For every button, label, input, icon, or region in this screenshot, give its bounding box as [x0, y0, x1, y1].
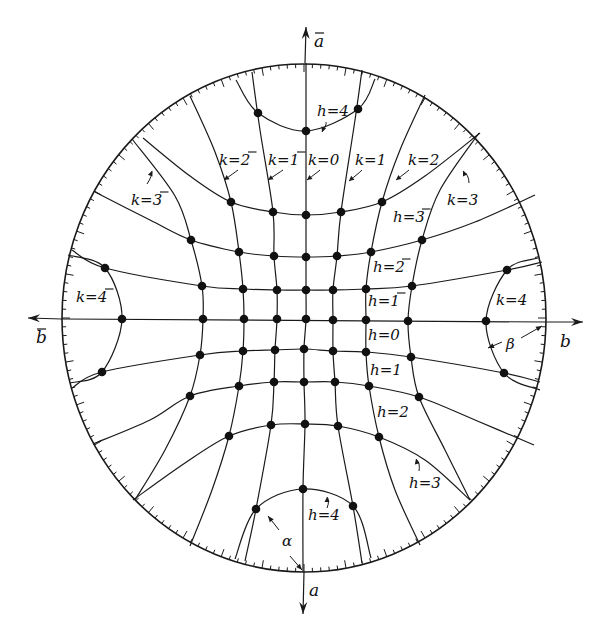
lattice-point-h-1-k-4: [101, 264, 110, 273]
pointer-arrow-icon: [463, 171, 469, 183]
tick-mark: [221, 549, 224, 557]
lattice-point-h0-k-1: [273, 315, 282, 324]
lattice-point-h-1-k4: [503, 266, 512, 275]
index-label: k=1: [268, 151, 299, 169]
tick-mark: [148, 506, 153, 512]
lattice-point-h-2-k-2: [235, 248, 244, 257]
lattice-point-h-3-k2: [378, 198, 387, 207]
lattice-point-h3-k0: [301, 420, 310, 429]
lattice-point-h2-k-2: [235, 382, 244, 391]
lattice-point-h1-k0: [300, 345, 309, 354]
lattice-point-h1-k-1: [271, 346, 280, 355]
b-axis: b: [546, 318, 583, 351]
index-label: k=2: [408, 151, 439, 169]
lattice-point-h0-k4: [482, 317, 491, 326]
pointer-arrow-icon: [396, 170, 409, 180]
lattice-point-h0-k0: [302, 315, 311, 324]
index-label: h=2: [373, 258, 405, 276]
pointer-arrow-icon: [349, 170, 362, 181]
pointer-arrow-icon: [415, 459, 420, 471]
lattice-point-h-4-k1: [354, 105, 363, 114]
lattice-point-h0-k-4: [118, 315, 127, 324]
beta-label: β: [505, 335, 515, 353]
h-curve: [143, 133, 480, 215]
index-label: h=1: [368, 292, 400, 310]
axis-label: b: [560, 331, 571, 351]
h-curve: [93, 382, 534, 445]
lattice-point-h-2-k2: [367, 248, 376, 257]
lattice-point-h2-k3: [415, 393, 424, 402]
tick-mark: [421, 531, 425, 538]
tick-mark: [345, 560, 346, 568]
tick-mark: [534, 274, 542, 275]
lattice-point-h1-k-3: [196, 351, 205, 360]
lattice-point-h-3-k0: [302, 211, 311, 220]
lattice-point-h0-k1: [329, 316, 338, 325]
lattice-point-h0-k-2: [240, 315, 249, 324]
lattice-point-h-2-k1: [333, 252, 342, 261]
lattice-point-h-1-k0: [302, 286, 311, 295]
tick-mark: [524, 231, 532, 234]
lattice-point-h-2-k0: [302, 253, 311, 262]
curve-labels: h=4k=2k=1k=0k=1k=2k=3k=3h=3h=2k=4h=1k=4h…: [76, 102, 527, 550]
lattice-point-h3-k2: [375, 433, 384, 442]
b-bar-axis: b: [28, 314, 62, 347]
index-label: h=4: [317, 102, 349, 120]
lattice-point-h-3-k-2: [227, 198, 236, 207]
lattice-point-h2-k1: [331, 378, 340, 387]
k-curve: [245, 72, 277, 561]
lattice-point-h0-k-3: [199, 315, 208, 324]
index-label: h=3: [393, 208, 425, 226]
lattice-point-h3-k1: [334, 422, 343, 431]
index-label: h=1: [370, 361, 402, 379]
lattice-point-h2-k0: [300, 378, 309, 387]
pointer-arrow-icon: [307, 170, 320, 180]
index-label: k=4: [496, 291, 527, 309]
tick-mark: [183, 98, 187, 105]
index-label: k=3: [447, 191, 478, 209]
tick-mark: [384, 79, 387, 87]
pointer-arrow-icon: [147, 171, 153, 184]
tick-mark: [183, 531, 187, 538]
tick-mark: [454, 123, 459, 129]
stereographic-projection-figure: aabb h=4k=2k=1k=0k=1k=2k=3k=3h=3h=2k=4h=…: [0, 0, 602, 631]
k-curve: [486, 258, 540, 390]
index-label: h=2: [377, 403, 409, 421]
pointer-arrow-icon: [224, 170, 238, 180]
lattice-point-h-2-k-1: [270, 252, 279, 261]
lattice-point-h-1-k-2: [239, 285, 248, 294]
lattice-point-h1-k4: [500, 369, 509, 378]
index-label: k=4: [76, 288, 107, 306]
index-label: h=0: [368, 326, 400, 344]
alpha-label: α: [282, 532, 292, 550]
tick-mark: [77, 402, 85, 405]
axis-label: a: [314, 31, 324, 51]
lattice-point-h-2-k3: [418, 236, 427, 245]
tick-mark: [66, 274, 74, 275]
lattice-point-h2-k2: [365, 382, 374, 391]
lattice-point-h2-k-1: [270, 378, 279, 387]
index-label: h=3: [409, 474, 441, 492]
tick-mark: [483, 476, 489, 481]
lattice-point-h-3-k-1: [269, 208, 278, 217]
tick-mark: [454, 506, 459, 512]
lattice-point-h1-k2: [362, 348, 371, 357]
tick-mark: [119, 476, 125, 481]
lattice-point-h-3-k1: [337, 208, 346, 217]
tick-mark: [262, 68, 263, 76]
projection-canvas: aabb h=4k=2k=1k=0k=1k=2k=3k=3h=3h=2k=4h=…: [0, 0, 602, 631]
tick-mark: [384, 549, 387, 557]
index-label: k=3: [131, 191, 162, 209]
lattice-point-h1-k3: [407, 353, 416, 362]
tick-mark: [262, 560, 263, 568]
a-axis: a: [299, 572, 319, 614]
tick-mark: [507, 441, 514, 445]
lattice-point-h0-k3: [404, 317, 413, 326]
index-label: k=0: [308, 151, 340, 169]
pointer-arrow-icon: [268, 170, 283, 180]
k-curve: [333, 70, 362, 563]
tick-mark: [66, 361, 74, 362]
tick-mark: [77, 231, 85, 234]
lattice-point-h-4-k-1: [254, 109, 263, 118]
tick-mark: [345, 68, 346, 76]
